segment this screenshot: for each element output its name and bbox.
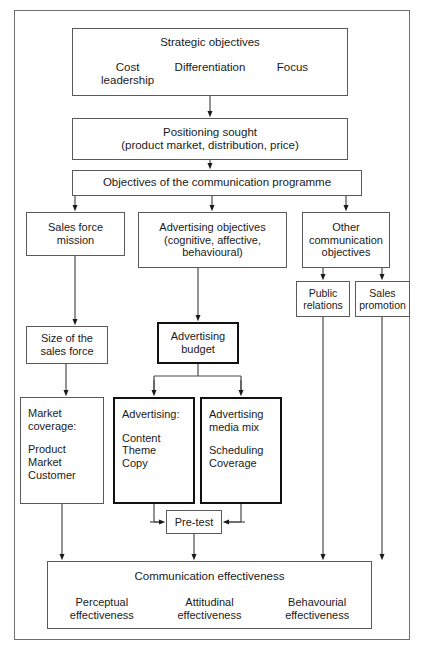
node-strategic-objectives: Strategic objectives Cost leadership Dif…: [72, 28, 348, 96]
pre-test-label: Pre-test: [175, 516, 214, 529]
advertising-objectives-line-1: Advertising objectives: [159, 221, 265, 234]
advertising-media-line-1: Advertising: [209, 408, 263, 421]
advertising-content-line-2: Content: [122, 432, 161, 445]
market-coverage-line-2: coverage:: [28, 420, 76, 433]
flowchart-diagram: Strategic objectives Cost leadership Dif…: [0, 0, 423, 652]
node-advertising-budget: Advertising budget: [157, 322, 239, 364]
node-pre-test: Pre-test: [166, 510, 222, 534]
node-other-communication-objectives: Other communication objectives: [302, 212, 390, 268]
behavourial-line-2: effectiveness: [264, 609, 371, 622]
market-coverage-line-3: Product: [28, 443, 66, 456]
strategic-column-differentiation: Differentiation: [169, 61, 250, 87]
positioning-line-1: Positioning sought: [163, 126, 257, 139]
effectiveness-column-attitudinal: Attitudinal effectiveness: [156, 596, 263, 621]
other-comm-line-3: objectives: [322, 246, 371, 259]
size-sales-force-line-2: sales force: [40, 345, 93, 358]
sales-force-mission-line-2: mission: [57, 234, 94, 247]
node-public-relations: Public relations: [296, 281, 350, 317]
advertising-objectives-line-3: behavioural): [182, 246, 243, 259]
size-sales-force-line-1: Size of the: [41, 332, 93, 345]
strategic-column-cost-leadership: Cost leadership: [87, 61, 168, 87]
strategic-objectives-columns: Cost leadership Differentiation Focus: [73, 61, 347, 87]
differentiation-line: Differentiation: [169, 61, 250, 74]
node-advertising-content: Advertising: Content Theme Copy: [113, 397, 195, 504]
effectiveness-column-behavourial: Behavourial effectiveness: [264, 596, 371, 621]
node-sales-promotion: Sales promotion: [355, 281, 410, 317]
perceptual-line-2: effectiveness: [49, 609, 156, 622]
attitudinal-line-2: effectiveness: [156, 609, 263, 622]
other-comm-line-2: communication: [309, 234, 383, 247]
advertising-budget-line-1: Advertising: [171, 330, 225, 343]
node-size-of-sales-force: Size of the sales force: [26, 326, 108, 364]
advertising-media-line-2: media mix: [209, 421, 259, 434]
strategic-column-focus: Focus: [252, 61, 333, 87]
other-comm-line-1: Other: [332, 221, 360, 234]
positioning-line-2: (product market, distribution, price): [121, 139, 299, 152]
behavourial-line-1: Behavourial: [264, 596, 371, 609]
market-coverage-line-1: Market: [28, 407, 62, 420]
sales-promotion-line-1: Sales: [369, 287, 395, 299]
node-communication-effectiveness: Communication effectiveness Perceptual e…: [47, 561, 372, 629]
communication-effectiveness-columns: Perceptual effectiveness Attitudinal eff…: [48, 596, 371, 621]
market-coverage-line-4: Market: [28, 456, 62, 469]
node-advertising-objectives: Advertising objectives (cognitive, affec…: [138, 212, 287, 268]
node-advertising-media-mix: Advertising media mix Scheduling Coverag…: [200, 397, 282, 504]
objectives-label: Objectives of the communication programm…: [103, 176, 331, 189]
public-relations-line-1: Public: [309, 287, 338, 299]
cost-line: Cost: [87, 61, 168, 74]
advertising-media-line-3: Scheduling: [209, 444, 263, 457]
node-market-coverage: Market coverage: Product Market Customer: [20, 397, 104, 504]
advertising-budget-line-2: budget: [181, 343, 215, 356]
node-sales-force-mission: Sales force mission: [26, 212, 125, 256]
market-coverage-line-5: Customer: [28, 469, 76, 482]
effectiveness-column-perceptual: Perceptual effectiveness: [49, 596, 156, 621]
advertising-content-line-1: Advertising:: [122, 408, 179, 421]
advertising-content-line-4: Copy: [122, 457, 148, 470]
sales-promotion-line-2: promotion: [359, 299, 406, 311]
perceptual-line-1: Perceptual: [49, 596, 156, 609]
advertising-content-line-3: Theme: [122, 444, 156, 457]
node-communication-objectives: Objectives of the communication programm…: [72, 170, 362, 196]
sales-force-mission-line-1: Sales force: [48, 221, 103, 234]
advertising-objectives-line-2: (cognitive, affective,: [164, 234, 261, 247]
focus-line: Focus: [252, 61, 333, 74]
communication-effectiveness-heading: Communication effectiveness: [135, 570, 285, 583]
advertising-media-line-4: Coverage: [209, 457, 257, 470]
strategic-objectives-heading: Strategic objectives: [160, 36, 260, 49]
node-positioning-sought: Positioning sought (product market, dist…: [72, 118, 348, 160]
public-relations-line-2: relations: [303, 299, 343, 311]
attitudinal-line-1: Attitudinal: [156, 596, 263, 609]
leadership-line: leadership: [87, 74, 168, 87]
